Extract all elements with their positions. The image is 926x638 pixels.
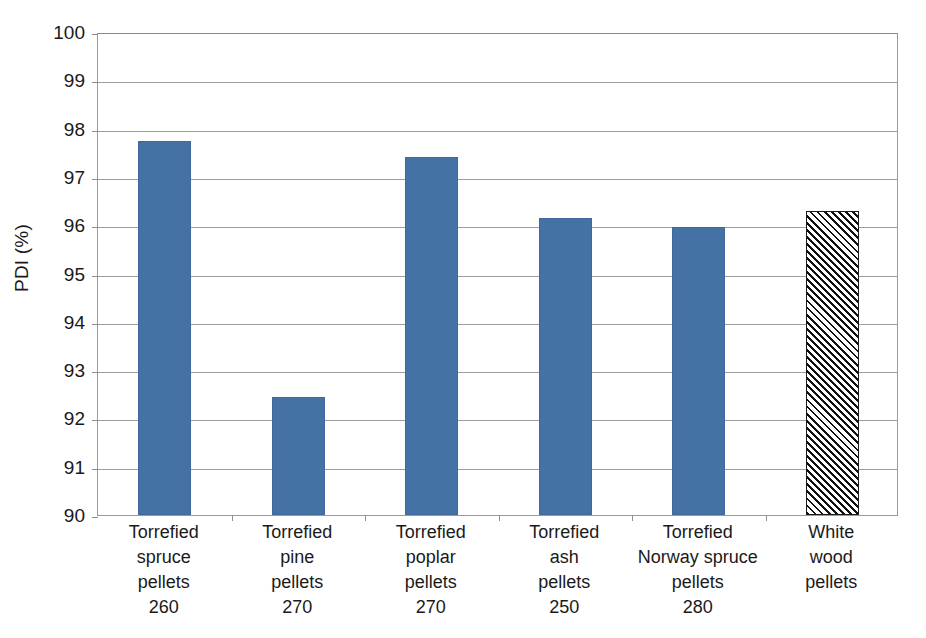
gridline xyxy=(98,227,897,228)
y-tick-label: 99 xyxy=(64,70,85,92)
y-tick-label: 94 xyxy=(64,312,85,334)
y-axis-tick xyxy=(92,131,98,132)
y-axis-tick xyxy=(92,276,98,277)
y-axis-tick xyxy=(92,179,98,180)
bar xyxy=(539,218,592,515)
gridline xyxy=(98,82,897,83)
x-axis-label-line: 270 xyxy=(364,595,498,620)
y-tick-label: 93 xyxy=(64,360,85,382)
gridline xyxy=(98,276,897,277)
x-axis-label: Whitewoodpellets xyxy=(765,520,899,595)
pdi-bar-chart: PDI (%) 10099989796959493929190 Torrefie… xyxy=(0,0,926,638)
x-axis-label-line: spruce xyxy=(97,545,231,570)
x-axis-label-line: 280 xyxy=(631,595,765,620)
y-tick-label: 100 xyxy=(53,22,85,44)
x-axis-label-line: Torrefied xyxy=(97,520,231,545)
x-axis-label-line: pine xyxy=(231,545,365,570)
y-axis-tick xyxy=(92,324,98,325)
x-axis-label-line: 260 xyxy=(97,595,231,620)
x-axis-label-line: pellets xyxy=(231,570,365,595)
y-axis-tick-labels: 10099989796959493929190 xyxy=(44,0,91,638)
x-axis-label: Torrefiedsprucepellets260 xyxy=(97,520,231,620)
plot-area xyxy=(97,33,898,516)
x-axis-label-line: pellets xyxy=(364,570,498,595)
x-axis-label-line: wood xyxy=(765,545,899,570)
y-axis-tick xyxy=(92,420,98,421)
gridline xyxy=(98,372,897,373)
y-tick-label: 98 xyxy=(64,119,85,141)
y-tick-label: 96 xyxy=(64,215,85,237)
bar xyxy=(138,141,191,515)
gridline xyxy=(98,469,897,470)
x-axis-label-line: Torrefied xyxy=(498,520,632,545)
y-axis-tick xyxy=(92,34,98,35)
y-axis-tick xyxy=(92,82,98,83)
y-axis-tick xyxy=(92,469,98,470)
x-axis-label: Torrefiedpinepellets270 xyxy=(231,520,365,620)
x-axis-label-line: pellets xyxy=(631,570,765,595)
x-axis-label-line: 250 xyxy=(498,595,632,620)
x-axis-label-line: pellets xyxy=(765,570,899,595)
x-axis-label-line: poplar xyxy=(364,545,498,570)
gridline xyxy=(98,179,897,180)
y-tick-label: 90 xyxy=(64,505,85,527)
x-axis-label-line: White xyxy=(765,520,899,545)
gridline xyxy=(98,420,897,421)
y-tick-label: 97 xyxy=(64,167,85,189)
y-tick-label: 92 xyxy=(64,408,85,430)
x-axis-category-labels: Torrefiedsprucepellets260Torrefiedpinepe… xyxy=(97,520,898,638)
y-axis-title: PDI (%) xyxy=(0,0,44,516)
gridline xyxy=(98,131,897,132)
x-axis-label: Torrefiedashpellets250 xyxy=(498,520,632,620)
x-axis-label-line: 270 xyxy=(231,595,365,620)
x-axis-label-line: Norway spruce xyxy=(631,545,765,570)
y-axis-title-text: PDI (%) xyxy=(11,224,33,292)
y-axis-tick xyxy=(92,227,98,228)
gridline xyxy=(98,324,897,325)
x-axis-label-line: Torrefied xyxy=(364,520,498,545)
x-axis-label-line: pellets xyxy=(97,570,231,595)
y-axis-tick xyxy=(92,517,98,518)
x-axis-label-line: Torrefied xyxy=(631,520,765,545)
x-axis-label: TorrefiedNorway sprucepellets280 xyxy=(631,520,765,620)
x-axis-label-line: pellets xyxy=(498,570,632,595)
bar xyxy=(806,211,859,515)
y-axis-tick xyxy=(92,372,98,373)
y-tick-label: 95 xyxy=(64,264,85,286)
x-axis-label: Torrefiedpoplarpellets270 xyxy=(364,520,498,620)
bar xyxy=(672,227,725,515)
bar xyxy=(272,397,325,515)
y-tick-label: 91 xyxy=(64,457,85,479)
bar xyxy=(405,157,458,515)
x-axis-label-line: Torrefied xyxy=(231,520,365,545)
x-axis-label-line: ash xyxy=(498,545,632,570)
